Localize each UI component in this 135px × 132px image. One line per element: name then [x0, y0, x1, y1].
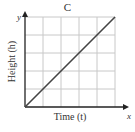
data-series	[25, 17, 115, 107]
axes	[22, 11, 129, 110]
x-axis-letter: x	[127, 111, 131, 121]
x-axis-label: Time (t)	[40, 111, 100, 122]
